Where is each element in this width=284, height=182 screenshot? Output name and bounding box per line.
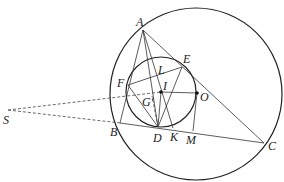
label-f: F (116, 76, 125, 90)
geometry-diagram: A B C D E F G' I K L M O S (0, 0, 284, 182)
label-k: K (169, 130, 179, 144)
segment-id (158, 92, 161, 127)
label-d: D (152, 131, 162, 145)
label-a: A (135, 15, 144, 29)
label-i: I (162, 79, 168, 93)
dashed-s-i (8, 92, 161, 110)
dashed-s-b (8, 110, 120, 123)
label-m: M (185, 133, 197, 147)
label-b: B (110, 125, 118, 139)
segment-ad (143, 30, 158, 127)
point-o (195, 91, 199, 95)
label-e: E (182, 52, 191, 66)
label-l: L (157, 63, 165, 77)
segment-ak (143, 30, 173, 128)
label-g: G' (142, 95, 154, 109)
label-c: C (268, 139, 277, 153)
label-o: O (200, 90, 209, 104)
label-s: S (3, 113, 9, 127)
side-ac (143, 30, 264, 143)
